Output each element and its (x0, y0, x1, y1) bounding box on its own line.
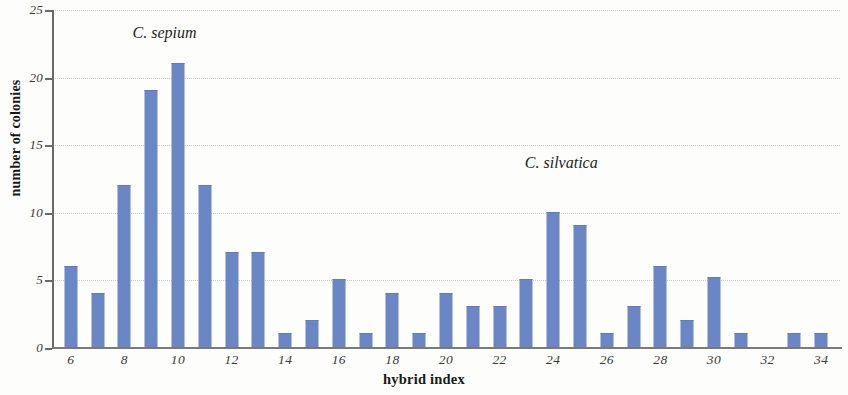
x-tick-label: 6 (67, 352, 74, 368)
bar-slot (459, 10, 486, 348)
x-tick-label: 8 (121, 352, 128, 368)
bar-slot (701, 10, 728, 348)
bar-slot (540, 10, 567, 348)
bar-slot (245, 10, 272, 348)
x-axis-line (52, 347, 842, 349)
y-axis-line (52, 10, 54, 348)
bar (466, 306, 479, 348)
x-tick-label: 14 (278, 352, 292, 368)
bar (279, 333, 292, 348)
bar (252, 252, 265, 348)
bar (91, 293, 104, 348)
bar (493, 306, 506, 348)
bar (305, 320, 318, 348)
species-annotation: C. silvatica (525, 154, 598, 172)
bar (359, 333, 372, 348)
x-tick-label: 30 (707, 352, 721, 368)
bar (815, 333, 828, 348)
bar-slot (486, 10, 513, 348)
bar-slot (567, 10, 594, 348)
y-tick-label: 20 (29, 70, 52, 86)
bar (574, 225, 587, 348)
y-tick-label: 25 (29, 2, 52, 18)
bar-slot (781, 10, 808, 348)
bar (654, 266, 667, 348)
bar (520, 279, 533, 348)
bar (145, 90, 158, 348)
bar-slot (325, 10, 352, 348)
bar (118, 185, 131, 348)
bar-slot (379, 10, 406, 348)
y-tick-label: 15 (29, 137, 52, 153)
y-tick-label: 10 (29, 205, 52, 221)
bar-chart-figure: 0510152025 C. sepiumC. silvatica 6810121… (0, 0, 848, 395)
bar-slot (84, 10, 111, 348)
y-tick-label: 5 (36, 272, 52, 288)
bar-slot (593, 10, 620, 348)
bar-slot (218, 10, 245, 348)
bar (627, 306, 640, 348)
y-axis-title: number of colonies (8, 43, 24, 233)
bar-slot (272, 10, 299, 348)
bar-slot (620, 10, 647, 348)
x-tick-label: 16 (332, 352, 346, 368)
bar-slot (674, 10, 701, 348)
bar-slot (754, 10, 781, 348)
bar (225, 252, 238, 348)
bar (708, 277, 721, 348)
bar-slot (191, 10, 218, 348)
bar-slot (111, 10, 138, 348)
bar-slot (647, 10, 674, 348)
x-tick-label: 28 (653, 352, 667, 368)
x-axis-title: hybrid index (0, 371, 848, 388)
bar-slot (138, 10, 165, 348)
bar-slot (352, 10, 379, 348)
bar (788, 333, 801, 348)
x-tick-label: 26 (600, 352, 614, 368)
bar-slot (406, 10, 433, 348)
species-annotation: C. sepium (133, 24, 197, 42)
bar (198, 185, 211, 348)
bar-slot (727, 10, 754, 348)
x-tick-label: 32 (760, 352, 774, 368)
bar (413, 333, 426, 348)
bar (439, 293, 452, 348)
bar-slot (808, 10, 835, 348)
y-tick-label: 0 (36, 340, 52, 356)
bar-slot (299, 10, 326, 348)
bar (171, 63, 184, 348)
bar-series (52, 10, 840, 348)
bar-slot (165, 10, 192, 348)
x-tick-label: 34 (814, 352, 828, 368)
x-tick-label: 10 (171, 352, 185, 368)
bar-slot (57, 10, 84, 348)
bar (681, 320, 694, 348)
plot-area: 0510152025 C. sepiumC. silvatica (52, 10, 840, 348)
x-tick-label: 12 (224, 352, 238, 368)
x-tick-label: 22 (492, 352, 506, 368)
bar-slot (433, 10, 460, 348)
bar (332, 279, 345, 348)
x-tick-label: 24 (546, 352, 560, 368)
bar (547, 212, 560, 348)
bar (734, 333, 747, 348)
x-tick-label: 20 (439, 352, 453, 368)
bar (600, 333, 613, 348)
bar-slot (513, 10, 540, 348)
bar (64, 266, 77, 348)
x-tick-label: 18 (385, 352, 399, 368)
bar (386, 293, 399, 348)
